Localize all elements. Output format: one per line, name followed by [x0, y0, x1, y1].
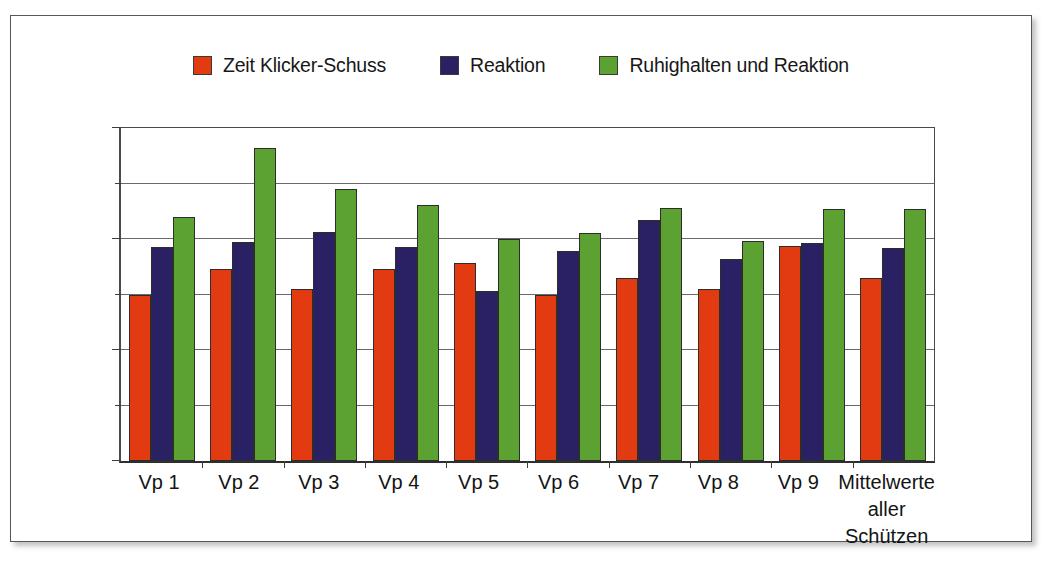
bar[interactable]	[151, 247, 173, 461]
x-tick	[609, 461, 610, 468]
bar[interactable]	[823, 209, 845, 461]
bar[interactable]	[291, 289, 313, 461]
bar-group	[853, 128, 934, 461]
bar[interactable]	[638, 220, 660, 461]
x-tick	[853, 461, 854, 468]
x-axis-label: Vp 9	[758, 469, 838, 550]
x-axis-label: Vp 8	[678, 469, 758, 550]
bar-group	[202, 128, 283, 461]
x-axis-label: Vp 2	[199, 469, 279, 550]
bar-group	[527, 128, 608, 461]
x-tick	[365, 461, 366, 468]
bar-group	[690, 128, 771, 461]
x-tick	[446, 461, 447, 468]
x-axis-label: Mittelwerte aller Schützen	[838, 469, 935, 550]
bar[interactable]	[373, 269, 395, 461]
x-axis-label: Vp 6	[519, 469, 599, 550]
x-tick	[527, 461, 528, 468]
legend-swatch-icon	[193, 56, 212, 75]
y-tick-major	[112, 349, 121, 350]
bar[interactable]	[454, 263, 476, 461]
bar-groups	[121, 128, 934, 461]
legend-item[interactable]: Reaktion	[440, 54, 545, 77]
x-axis-labels: Vp 1Vp 2Vp 3Vp 4Vp 5Vp 6Vp 7Vp 8Vp 9Mitt…	[119, 469, 935, 550]
x-axis-label: Vp 3	[279, 469, 359, 550]
bar[interactable]	[660, 208, 682, 461]
legend-swatch-icon	[440, 56, 459, 75]
bar[interactable]	[232, 242, 254, 461]
bar[interactable]	[210, 269, 232, 461]
bar[interactable]	[498, 239, 520, 461]
bar[interactable]	[557, 251, 579, 461]
bar-group	[446, 128, 527, 461]
x-axis-label: Vp 5	[439, 469, 519, 550]
bar[interactable]	[742, 241, 764, 461]
x-axis-label: Vp 1	[119, 469, 199, 550]
plot-area: 0 ms100 ms200 ms300 ms	[119, 127, 935, 463]
bar[interactable]	[779, 246, 801, 461]
bar[interactable]	[904, 209, 926, 461]
bar[interactable]	[535, 295, 557, 462]
legend-label: Ruhighalten und Reaktion	[629, 54, 849, 77]
x-tick	[284, 461, 285, 468]
bar-group	[284, 128, 365, 461]
x-tick	[202, 461, 203, 468]
bar[interactable]	[616, 278, 638, 461]
bar[interactable]	[860, 278, 882, 461]
x-tick	[690, 461, 691, 468]
bar[interactable]	[254, 148, 276, 461]
bar[interactable]	[579, 233, 601, 461]
legend-swatch-icon	[599, 56, 618, 75]
x-tick	[771, 461, 772, 468]
legend-label: Reaktion	[470, 54, 545, 77]
legend-label: Zeit Klicker-Schuss	[223, 54, 386, 77]
figure-frame: Zeit Klicker-SchussReaktionRuhighalten u…	[10, 15, 1032, 542]
y-tick-major	[112, 127, 121, 128]
legend-item[interactable]: Zeit Klicker-Schuss	[193, 54, 386, 77]
bar[interactable]	[801, 243, 823, 461]
bar[interactable]	[335, 189, 357, 461]
bar-group	[609, 128, 690, 461]
bar[interactable]	[720, 259, 742, 461]
y-tick-major	[112, 238, 121, 239]
chart-legend: Zeit Klicker-SchussReaktionRuhighalten u…	[11, 54, 1031, 77]
bar-group	[121, 128, 202, 461]
bar[interactable]	[313, 232, 335, 461]
bar-group	[771, 128, 852, 461]
bar-group	[365, 128, 446, 461]
bar[interactable]	[476, 291, 498, 461]
legend-item[interactable]: Ruhighalten und Reaktion	[599, 54, 849, 77]
bar[interactable]	[395, 247, 417, 461]
bar[interactable]	[173, 217, 195, 461]
bar[interactable]	[882, 248, 904, 461]
bar[interactable]	[417, 205, 439, 461]
x-axis-label: Vp 7	[599, 469, 679, 550]
bar[interactable]	[129, 295, 151, 462]
bar[interactable]	[698, 289, 720, 461]
x-axis-label: Vp 4	[359, 469, 439, 550]
y-tick-major	[112, 460, 121, 461]
